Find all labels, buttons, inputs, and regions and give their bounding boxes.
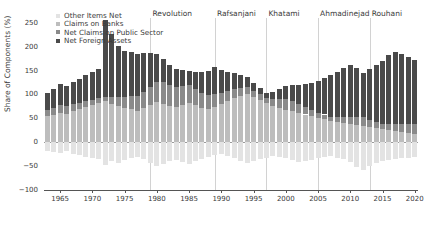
bar-segment [167, 106, 172, 142]
chart-figure: Share of Components (%) −100−50050100150… [0, 0, 432, 228]
x-tick-mark [318, 190, 319, 193]
bar-segment [335, 72, 340, 118]
bar-segment [129, 142, 134, 158]
bar-segment [283, 86, 288, 99]
x-tick-label: 2015 [374, 196, 392, 203]
bar-segment [270, 92, 275, 100]
bar-segment [238, 142, 243, 161]
bar-segment [399, 124, 404, 132]
bar-segment [361, 126, 366, 142]
bar-segment [277, 99, 282, 108]
bar-column [296, 18, 301, 190]
bar-segment [380, 61, 385, 124]
bar-segment [270, 106, 275, 142]
bar-segment [83, 75, 88, 101]
bar-segment [199, 72, 204, 93]
bar-segment [354, 125, 359, 142]
bar-segment [141, 53, 146, 91]
bar-segment [341, 68, 346, 118]
bar-segment [116, 46, 121, 98]
bar-segment [187, 142, 192, 164]
bar-segment [283, 142, 288, 158]
bar-segment [296, 85, 301, 104]
bar-segment [361, 142, 366, 170]
bar-segment [354, 142, 359, 167]
bar-column [45, 18, 50, 190]
bar-segment [374, 128, 379, 142]
bar-segment [129, 109, 134, 142]
bar-segment [103, 101, 108, 142]
x-tick-label: 1970 [83, 196, 101, 203]
bar-segment [122, 108, 127, 142]
bar-segment [212, 142, 217, 154]
bar-segment [58, 105, 63, 113]
bar-segment [141, 108, 146, 142]
bar-segment [406, 142, 411, 157]
bar-segment [77, 103, 82, 109]
bar-segment [83, 142, 88, 156]
bar-segment [245, 94, 250, 142]
bar-column [141, 18, 146, 190]
bar-segment [219, 93, 224, 104]
bar-segment [406, 133, 411, 143]
bar-segment [116, 142, 121, 163]
bar-segment [90, 142, 95, 158]
x-tick-label: 1975 [116, 196, 134, 203]
bar-column [309, 18, 314, 190]
bar-segment [45, 110, 50, 116]
bar-segment [103, 97, 108, 101]
bar-segment [309, 116, 314, 142]
bar-segment [187, 71, 192, 85]
bar-segment [129, 52, 134, 96]
era-label: Ahmadinejad [320, 10, 369, 18]
bar-column [135, 18, 140, 190]
x-tick-mark [383, 190, 384, 193]
bar-segment [393, 52, 398, 124]
y-tick-label: −50 [0, 163, 38, 170]
bar-segment [77, 142, 82, 154]
y-tick-label: 100 [0, 91, 38, 98]
bar-segment [51, 115, 56, 143]
bar-segment [386, 130, 391, 142]
bar-segment [232, 142, 237, 158]
bar-column [290, 18, 295, 190]
bar-segment [45, 116, 50, 142]
y-tick-label: 0 [0, 139, 38, 146]
bar-segment [367, 127, 372, 142]
x-tick-label: 1985 [180, 196, 198, 203]
bar-segment [322, 119, 327, 142]
bar-segment [193, 89, 198, 105]
bar-segment [135, 96, 140, 110]
bar-column [386, 18, 391, 190]
bar-column [367, 18, 372, 190]
bar-segment [258, 100, 263, 142]
bar-segment [141, 142, 146, 159]
bar-segment [193, 105, 198, 142]
bar-segment [399, 54, 404, 124]
bar-segment [212, 67, 217, 95]
bar-column [374, 18, 379, 190]
bar-segment [393, 142, 398, 159]
bar-segment [290, 111, 295, 143]
x-tick-mark [286, 190, 287, 193]
bar-column [180, 18, 185, 190]
bar-segment [380, 124, 385, 129]
bar-segment [238, 88, 243, 97]
bar-segment [322, 115, 327, 120]
bar-segment [122, 142, 127, 160]
bar-column [232, 18, 237, 190]
bar-segment [154, 102, 159, 142]
bar-column [322, 18, 327, 190]
x-tick-label: 2020 [406, 196, 424, 203]
bar-segment [264, 98, 269, 103]
bar-segment [206, 142, 211, 156]
bar-segment [316, 81, 321, 113]
bar-segment [328, 75, 333, 117]
x-tick-mark [60, 190, 61, 193]
bar-segment [374, 65, 379, 122]
bar-segment [412, 142, 417, 156]
bar-column [316, 18, 321, 190]
bar-segment [296, 113, 301, 143]
bar-segment [232, 73, 237, 88]
y-tick-label: 200 [0, 43, 38, 50]
